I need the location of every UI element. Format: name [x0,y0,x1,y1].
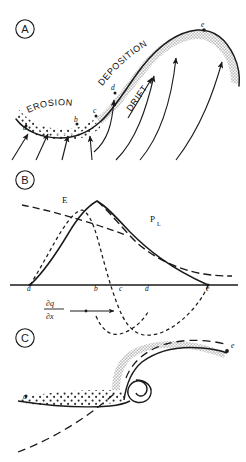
erosion-label: EROSION [25,97,74,115]
panel-c: C a e [16,312,235,452]
panel-c-point-a-label: a [23,392,27,401]
load-curve-label-subscript: L [157,221,161,227]
panel-b-point-b-label: b [94,284,98,293]
panel-b-point-d-label: d [145,284,149,293]
panel-a-point-b-label: b [74,115,78,124]
panel-c-letter-text: C [21,332,29,344]
panel-b-letter: B [16,171,34,189]
deposition-label: DEPOSITION [96,38,149,87]
three-panel-diagram: A a b c d e EROSION DEPOSITI [0,0,246,462]
erosion-rate-curve-label: E [62,195,68,205]
panel-a-letter-text: A [21,23,29,35]
panel-a-point-e-label: e [201,20,205,29]
flux-gradient-curve [30,210,208,335]
panel-b-letter-text: B [21,174,28,186]
load-curve-dashed [97,201,232,276]
panel-a-letter: A [16,20,34,38]
flux-gradient-numerator: ∂q [46,299,54,308]
flux-gradient-label: ∂q ∂x [44,299,64,321]
panel-c-letter: C [16,329,34,347]
panel-a-point-a-label: a [23,123,27,132]
load-curve-label-base: P [150,214,155,224]
panel-c-point-e-marker [225,349,229,353]
panel-b: B E P L a b c d e ∂q ∂x [10,171,238,335]
erosion-rate-curve [22,205,126,235]
panel-a-point-c-label: c [93,106,97,115]
panel-c-point-e-label: e [231,341,235,350]
panel-a-point-d-label: d [111,83,115,92]
flux-gradient-denominator: ∂x [46,312,54,321]
panel-b-point-a-label: a [27,284,31,293]
figure-container: A a b c d e EROSION DEPOSITI [0,0,246,462]
panel-c-overturn-curve [124,348,227,400]
load-curve-label: P L [150,214,161,227]
panel-a: A a b c d e EROSION DEPOSITI [12,20,239,160]
panel-b-overflow-dashed [96,312,148,334]
flux-gradient-arrow-dot [85,310,88,313]
panel-c-curl-spiral [128,380,151,403]
